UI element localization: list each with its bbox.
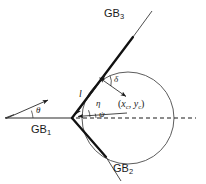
label-gb1-subscript: 1: [47, 128, 51, 137]
label-length-l: l: [79, 89, 82, 99]
label-gb2-subscript: 2: [129, 167, 133, 176]
gb2-line: [72, 118, 106, 157]
delta-arc: [110, 76, 111, 87]
label-center-x-subscript: c: [126, 103, 129, 110]
label-psi: ψ: [99, 110, 105, 119]
label-eta: η: [96, 99, 100, 108]
label-gb1-text: GB: [31, 123, 47, 135]
gb3-line-extension: [133, 11, 152, 37]
label-gb2-text: GB: [113, 162, 129, 174]
label-center-coordinates: (xc, yc): [118, 99, 144, 109]
label-gb2: GB2: [113, 163, 133, 174]
psi-arc: [95, 114, 96, 118]
label-theta: θ: [36, 106, 40, 115]
diagram-canvas: [0, 0, 206, 184]
theta-arc: [31, 111, 33, 118]
label-delta: δ: [114, 75, 118, 84]
label-center-y-subscript: c: [138, 103, 141, 110]
label-paren-close: ): [141, 98, 144, 109]
label-gb3-text: GB: [104, 7, 120, 19]
label-gb3-subscript: 3: [120, 12, 124, 21]
label-gb1: GB1: [31, 124, 51, 135]
label-gb3: GB3: [104, 8, 124, 19]
theta-ray: [6, 100, 48, 119]
figure-container: GB3 GB1 GB2 θ δ η ψ l (xc, yc): [0, 0, 206, 184]
